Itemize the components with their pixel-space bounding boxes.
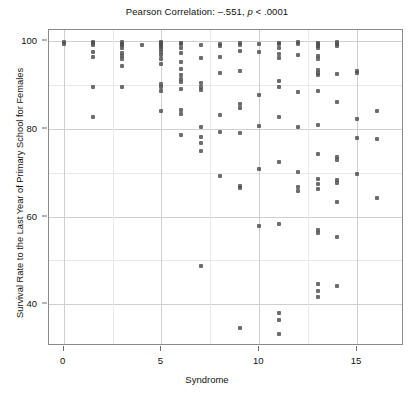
- data-point: [277, 85, 281, 89]
- y-tick-mark: [42, 303, 47, 304]
- data-point: [120, 64, 124, 68]
- data-point: [199, 88, 203, 92]
- data-point: [91, 50, 95, 54]
- data-point: [218, 71, 222, 75]
- data-point: [335, 158, 339, 162]
- data-point: [316, 289, 320, 293]
- data-point: [335, 235, 339, 239]
- data-point: [296, 53, 300, 57]
- data-point: [199, 56, 203, 60]
- y-axis-title: Survival Rate to the Last Year of Primar…: [15, 33, 25, 353]
- data-point: [316, 57, 320, 61]
- gridline-vertical-minor: [210, 30, 211, 344]
- data-point: [355, 172, 359, 176]
- data-point: [257, 224, 261, 228]
- data-point: [316, 152, 320, 156]
- data-point: [316, 73, 320, 77]
- y-tick-mark: [42, 127, 47, 128]
- x-tick-mark: [63, 346, 64, 351]
- data-point: [335, 200, 339, 204]
- gridline-horizontal-minor: [49, 260, 402, 261]
- x-tick-mark: [356, 346, 357, 351]
- data-point: [257, 42, 261, 46]
- data-point: [316, 123, 320, 127]
- data-point: [218, 113, 222, 117]
- data-point: [91, 55, 95, 59]
- gridline-vertical-minor: [113, 30, 114, 344]
- data-point: [375, 109, 379, 113]
- data-point: [120, 57, 124, 61]
- data-point: [238, 43, 242, 47]
- data-point: [199, 125, 203, 129]
- data-point: [179, 46, 183, 50]
- gridline-horizontal-minor: [49, 85, 402, 86]
- data-point: [316, 187, 320, 191]
- data-point: [277, 222, 281, 226]
- gridline-horizontal-major: [49, 41, 402, 42]
- data-point: [199, 135, 203, 139]
- x-tick-mark: [160, 346, 161, 351]
- data-point: [238, 131, 242, 135]
- y-tick-label: 100: [21, 34, 37, 45]
- gridline-horizontal-major: [49, 217, 402, 218]
- data-point: [335, 72, 339, 76]
- data-point: [257, 50, 261, 54]
- y-axis: Survival Rate to the Last Year of Primar…: [0, 0, 48, 396]
- gridline-horizontal-major: [49, 304, 402, 305]
- data-point: [296, 42, 300, 46]
- gridline-vertical-major: [161, 30, 162, 344]
- data-point: [159, 109, 163, 113]
- data-point: [91, 85, 95, 89]
- data-point: [335, 100, 339, 104]
- data-point: [179, 133, 183, 137]
- data-point: [179, 87, 183, 91]
- data-point: [355, 117, 359, 121]
- data-point: [277, 318, 281, 322]
- chart-title-italic-p: p: [247, 6, 252, 17]
- data-point: [159, 57, 163, 61]
- gridline-vertical-major: [64, 30, 65, 344]
- data-point: [120, 85, 124, 89]
- data-point: [238, 49, 242, 53]
- data-point: [179, 80, 183, 84]
- y-tick-label: 60: [26, 210, 37, 221]
- data-point: [316, 89, 320, 93]
- gridline-vertical-minor: [308, 30, 309, 344]
- data-point: [199, 141, 203, 145]
- plot-area: [48, 29, 403, 345]
- data-point: [296, 90, 300, 94]
- data-point: [91, 43, 95, 47]
- x-tick-mark: [258, 346, 259, 351]
- chart-title-suffix: < .0001: [256, 6, 289, 17]
- data-point: [277, 79, 281, 83]
- data-point: [277, 115, 281, 119]
- gridline-horizontal-minor: [49, 173, 402, 174]
- data-point: [62, 42, 66, 46]
- data-point: [335, 44, 339, 48]
- data-point: [179, 67, 183, 71]
- data-point: [316, 231, 320, 235]
- data-point: [335, 284, 339, 288]
- data-point: [218, 174, 222, 178]
- data-point: [140, 43, 144, 47]
- gridline-vertical-major: [259, 30, 260, 344]
- data-point: [238, 106, 242, 110]
- data-point: [316, 295, 320, 299]
- data-point: [199, 43, 203, 47]
- y-tick-mark: [42, 39, 47, 40]
- data-point: [277, 56, 281, 60]
- data-point: [335, 181, 339, 185]
- data-point: [355, 136, 359, 140]
- data-point: [120, 46, 124, 50]
- data-point: [375, 196, 379, 200]
- data-point: [218, 44, 222, 48]
- data-point: [296, 125, 300, 129]
- data-point: [218, 55, 222, 59]
- y-tick-label: 40: [26, 298, 37, 309]
- data-point: [316, 182, 320, 186]
- data-point: [316, 177, 320, 181]
- data-point: [257, 124, 261, 128]
- data-point: [159, 62, 163, 66]
- data-point: [296, 170, 300, 174]
- y-tick-label: 80: [26, 122, 37, 133]
